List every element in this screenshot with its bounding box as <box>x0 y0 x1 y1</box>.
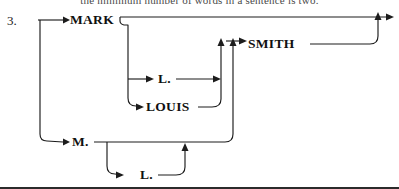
arrowhead-to-m <box>63 139 70 146</box>
louis-exit-riser <box>198 45 221 107</box>
node-label-mark: MARK <box>70 13 114 27</box>
left-spine-line <box>40 20 63 142</box>
arrowhead-to-smith <box>239 38 247 45</box>
node-label-smith: SMITH <box>248 37 295 51</box>
railroad-diagram-canvas <box>0 0 399 189</box>
node-label-first-initial: M. <box>72 135 89 149</box>
arrowhead-middle-initial-join <box>213 76 221 83</box>
diagram-page: the minimum number of words in a sentenc… <box>0 0 399 189</box>
lower-initial-riser <box>158 150 185 175</box>
arrowhead-to-middle-initial <box>146 76 154 83</box>
node-label-middle-initial: L. <box>158 72 171 86</box>
m-branch-drop <box>107 142 122 175</box>
arrowhead-lower-group-into-smith <box>230 38 237 46</box>
arrowhead-exit <box>386 14 394 21</box>
mark-branch-drop <box>120 17 142 107</box>
arrowhead-smith-merge <box>375 12 382 20</box>
node-label-lower-middle-initial: L. <box>140 168 153 182</box>
node-label-louis: LOUIS <box>146 100 190 114</box>
arrowhead-lower-initial-join <box>182 143 189 151</box>
smith-exit-riser <box>310 19 378 44</box>
arrowhead-to-louis <box>136 104 144 111</box>
arrowhead-to-lower-initial <box>116 172 124 179</box>
arrowhead-middle-group-into-smith <box>218 38 225 46</box>
arrowhead-to-mark <box>63 17 70 24</box>
page-bottom-rule <box>0 187 399 189</box>
m-rail <box>94 45 233 142</box>
